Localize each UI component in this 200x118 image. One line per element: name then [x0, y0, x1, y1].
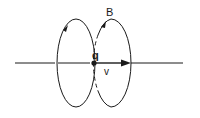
point-charge: [91, 60, 96, 65]
field-label: B: [106, 6, 113, 18]
arrowhead-icon: [121, 60, 131, 67]
velocity-vector: [94, 60, 131, 67]
charge-label: q: [92, 49, 99, 61]
velocity-label: v: [104, 66, 109, 77]
loop-arrow-icon: [101, 21, 106, 28]
magnetic-field-diagram: q v B: [0, 0, 200, 118]
